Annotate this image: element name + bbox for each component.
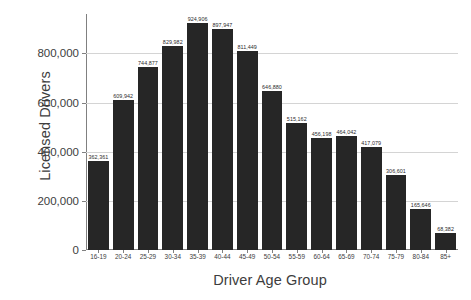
bar-group: 68,38285+ — [433, 14, 458, 250]
bar-group: 646,88050-54 — [260, 14, 285, 250]
bar — [113, 100, 134, 250]
y-tick-mark — [82, 250, 86, 251]
x-tick-label: 75-79 — [388, 253, 404, 260]
bar-value-label: 362,361 — [88, 154, 108, 160]
x-tick-label: 85+ — [440, 253, 451, 260]
bar — [435, 233, 456, 250]
plot-area: 0200,000400,000600,000800,000 362,36116-… — [86, 14, 458, 250]
bar — [212, 29, 233, 250]
bar-group: 924,90635-39 — [185, 14, 210, 250]
bar — [262, 91, 283, 250]
bar-value-label: 829,982 — [163, 39, 183, 45]
y-tick-label: 600,000 — [37, 97, 79, 109]
x-tick-label: 40-44 — [214, 253, 230, 260]
bar — [187, 23, 208, 250]
bar — [162, 46, 183, 250]
x-tick-label: 30-34 — [165, 253, 181, 260]
y-tick-label: 0 — [73, 244, 79, 256]
bar-group: 362,36116-19 — [86, 14, 111, 250]
y-tick-label: 800,000 — [37, 47, 79, 59]
x-tick-label: 55-59 — [289, 253, 305, 260]
x-tick-label: 50-54 — [264, 253, 280, 260]
bar-group: 829,98230-34 — [160, 14, 185, 250]
bar-value-label: 165,646 — [411, 202, 431, 208]
bar — [88, 161, 109, 250]
x-tick-label: 16-19 — [90, 253, 106, 260]
x-tick-label: 60-64 — [313, 253, 329, 260]
bar-group: 165,64680-84 — [408, 14, 433, 250]
bar — [286, 123, 307, 250]
bar-group: 464,04265-69 — [334, 14, 359, 250]
bar-group: 897,94740-44 — [210, 14, 235, 250]
bar-group: 456,19860-64 — [309, 14, 334, 250]
bar-value-label: 464,042 — [336, 129, 356, 135]
bar-value-label: 68,382 — [437, 226, 454, 232]
bar — [410, 209, 431, 250]
y-tick-label: 400,000 — [37, 146, 79, 158]
bar-value-label: 609,942 — [113, 93, 133, 99]
bar — [237, 51, 258, 250]
bar-value-label: 897,947 — [212, 22, 232, 28]
bar-group: 609,94220-24 — [111, 14, 136, 250]
bar-group: 515,16255-59 — [284, 14, 309, 250]
x-tick-label: 80-84 — [413, 253, 429, 260]
bar — [138, 67, 159, 250]
bar-value-label: 515,162 — [287, 116, 307, 122]
x-tick-label: 70-74 — [363, 253, 379, 260]
bar-group: 744,87725-29 — [136, 14, 161, 250]
bar-group: 306,60175-79 — [384, 14, 409, 250]
bar — [386, 175, 407, 250]
x-tick-label: 45-49 — [239, 253, 255, 260]
bar-value-label: 744,877 — [138, 60, 158, 66]
bar-value-label: 417,079 — [361, 140, 381, 146]
x-tick-label: 20-24 — [115, 253, 131, 260]
x-tick-label: 65-69 — [338, 253, 354, 260]
y-tick-label: 200,000 — [37, 195, 79, 207]
bar-value-label: 924,906 — [188, 16, 208, 22]
bar-value-label: 811,449 — [237, 44, 256, 50]
bar-chart: Licensed Drivers 0200,000400,000600,0008… — [0, 0, 471, 300]
bar-group: 417,07970-74 — [359, 14, 384, 250]
bars-layer: 362,36116-19609,94220-24744,87725-29829,… — [86, 14, 458, 250]
bar-group: 811,44945-49 — [235, 14, 260, 250]
bar-value-label: 456,198 — [312, 131, 332, 137]
x-tick-label: 35-39 — [189, 253, 205, 260]
bar — [361, 147, 382, 250]
x-axis-title: Driver Age Group — [85, 272, 455, 288]
bar — [311, 138, 332, 250]
x-tick-label: 25-29 — [140, 253, 156, 260]
bar-value-label: 646,880 — [262, 84, 282, 90]
bar-value-label: 306,601 — [386, 168, 406, 174]
bar — [336, 136, 357, 250]
